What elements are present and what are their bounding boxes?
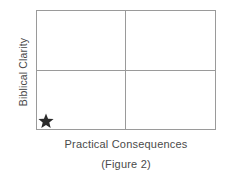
quadrant-figure: Biblical Clarity Practical Consequences … [0,0,231,179]
quadrant-grid [36,10,216,130]
quadrant-divider-horizontal [36,70,216,71]
grid-edge-bottom [36,129,216,130]
x-axis-label: Practical Consequences [36,138,216,150]
figure-caption: (Figure 2) [36,158,216,170]
y-axis-label: Biblical Clarity [15,7,30,137]
star-marker-icon [38,113,54,129]
grid-edge-top [36,10,216,11]
